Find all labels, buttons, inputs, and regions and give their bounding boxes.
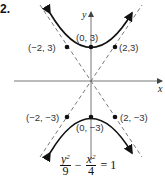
label-2-3: (2,3) — [119, 42, 139, 53]
y-axis-label: y — [81, 9, 87, 20]
fraction-y-squared-over-9: y2 9 — [60, 154, 71, 177]
label-neg2-3: (−2, 3) — [28, 42, 56, 53]
equation-rhs: = 1 — [100, 158, 116, 173]
point-neg2-neg3 — [65, 115, 70, 120]
fraction-x-squared-over-4: x2 4 — [86, 154, 97, 177]
label-2-neg3: (2, −3) — [120, 112, 148, 123]
hyperbola-equation: y2 9 − x2 4 = 1 — [60, 154, 160, 177]
point-neg2-3 — [65, 45, 70, 50]
point-2-neg3 — [113, 115, 118, 120]
point-vertex-lower — [89, 115, 94, 120]
point-2-3 — [113, 45, 118, 50]
label-vertex-lower: (0, −3) — [76, 122, 104, 133]
minus-operator: − — [75, 158, 82, 173]
label-neg2-neg3: (−2, −3) — [26, 112, 59, 123]
label-vertex-upper: (0, 3) — [76, 32, 98, 43]
x-axis-label: x — [157, 83, 163, 94]
point-vertex-upper — [89, 45, 94, 50]
